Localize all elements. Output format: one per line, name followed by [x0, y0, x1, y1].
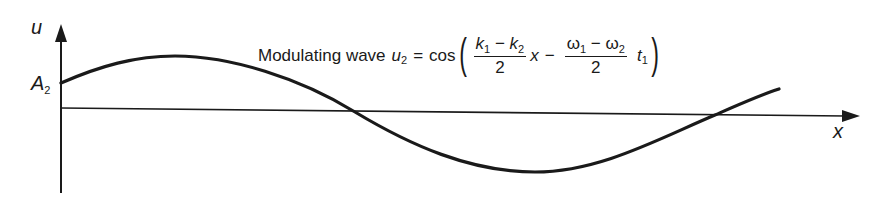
fraction-denominator: 2 [495, 57, 504, 79]
omega2-symbol: ω [605, 34, 618, 53]
lhs-variable: u [392, 46, 401, 66]
equation-prefix: Modulating wave [258, 46, 386, 66]
modulating-wave-diagram: u A2 x Modulating wave u2 = cos ( k1 − k… [0, 0, 869, 197]
amplitude-label: A2 [31, 72, 50, 95]
wavenumber-fraction: k1 − k2 2 [474, 33, 527, 79]
open-paren: ( [459, 33, 467, 75]
omega1-symbol: ω [567, 34, 580, 53]
k2-subscript: 2 [518, 43, 524, 55]
modulating-wave-equation: Modulating wave u2 = cos ( k1 − k2 2 x −… [258, 26, 662, 86]
lhs-subscript: 2 [401, 54, 407, 66]
x-variable: x [530, 46, 539, 66]
y-axis-arrowhead-icon [55, 24, 67, 42]
amplitude-subscript: 2 [44, 84, 50, 96]
equals-sign: = [413, 46, 423, 66]
k1-symbol: k [476, 34, 485, 53]
t-subscript: 1 [642, 54, 648, 66]
fraction-numerator: ω1 − ω2 [565, 33, 627, 57]
omega1-subscript: 1 [580, 43, 586, 55]
x-axis-label: x [833, 120, 843, 143]
amplitude-symbol: A [31, 72, 44, 94]
k2-symbol: k [510, 34, 519, 53]
omega2-subscript: 2 [619, 43, 625, 55]
fraction-denominator: 2 [591, 57, 600, 79]
x-axis-arrowhead-icon [842, 110, 860, 122]
frequency-fraction: ω1 − ω2 2 [565, 33, 627, 79]
y-axis-label: u [31, 16, 42, 39]
fraction-numerator: k1 − k2 [474, 33, 527, 57]
close-paren: ) [651, 33, 659, 75]
k1-subscript: 1 [484, 43, 490, 55]
minus-sign: − [495, 34, 505, 53]
minus-sign: − [591, 34, 601, 53]
minus-sign: − [545, 46, 555, 66]
cos-function: cos [429, 46, 455, 66]
